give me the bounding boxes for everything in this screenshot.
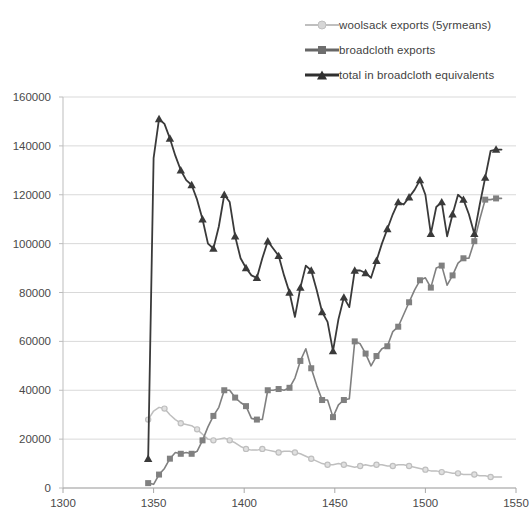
chart-root: woolsack exports (5yrmeans) broadcloth e… xyxy=(0,0,530,531)
x-tick-1500: 1500 xyxy=(413,497,439,509)
x-tick-1300: 1300 xyxy=(50,497,76,509)
x-axis-tick-labels: 130013501400145015001550 xyxy=(0,0,530,531)
x-tick-1550: 1550 xyxy=(503,497,529,509)
x-tick-1450: 1450 xyxy=(322,497,348,509)
x-tick-1350: 1350 xyxy=(141,497,167,509)
x-tick-1400: 1400 xyxy=(231,497,257,509)
